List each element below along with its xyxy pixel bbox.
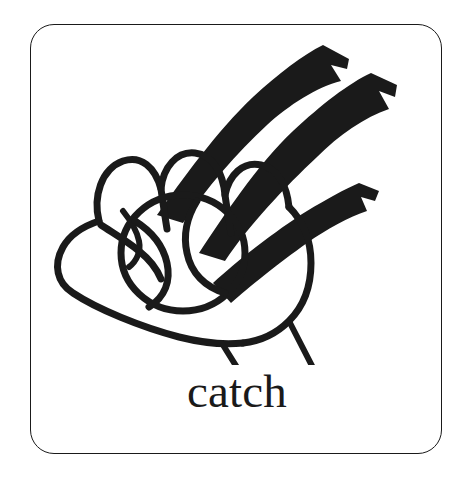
wrist-line-right-icon [289,321,329,365]
hand-catching-ball-illustration [31,25,443,365]
wrist-line-left-icon [223,345,263,365]
caption-label: catch [31,365,443,417]
pictogram-card: catch [30,24,442,454]
